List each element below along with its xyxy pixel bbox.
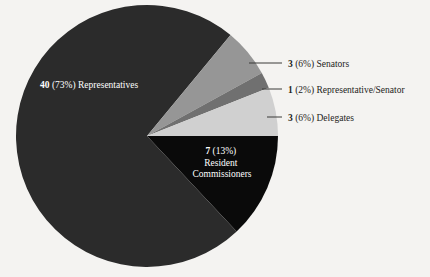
- callout-name-delegates: Delegates: [317, 113, 355, 123]
- callout-percent-representative-senator: (2%): [295, 85, 314, 96]
- callout-name-senators: Senators: [317, 59, 350, 69]
- inner-line-1-resident-commissioners: 7 (13%): [205, 146, 236, 157]
- pie-chart-figure: 3 (6%) Senators 1 (2%) Representative/Se…: [0, 0, 430, 277]
- inner-name-representatives: Representatives: [78, 80, 138, 90]
- callout-percent-delegates: (6%): [295, 113, 314, 124]
- callout-label-delegates: 3 (6%) Delegates: [288, 113, 354, 124]
- callout-label-representative-senator: 1 (2%) Representative/Senator: [288, 85, 405, 96]
- callout-name-representative-senator: Representative/Senator: [317, 85, 406, 95]
- inner-percent-representatives: (73%): [52, 80, 76, 91]
- pie-slices: [16, 5, 278, 267]
- inner-line-3-resident-commissioners: Commissioners: [192, 169, 251, 179]
- inner-value-representatives: 40: [40, 80, 50, 90]
- inner-label-representatives: 40 (73%) Representatives: [40, 80, 138, 91]
- callout-percent-senators: (6%): [295, 59, 314, 70]
- callout-label-senators: 3 (6%) Senators: [288, 59, 350, 70]
- inner-percent-resident-commissioners: (13%): [213, 146, 237, 157]
- pie-chart-svg: 3 (6%) Senators 1 (2%) Representative/Se…: [0, 0, 430, 277]
- inner-line-2-resident-commissioners: Resident: [204, 158, 238, 168]
